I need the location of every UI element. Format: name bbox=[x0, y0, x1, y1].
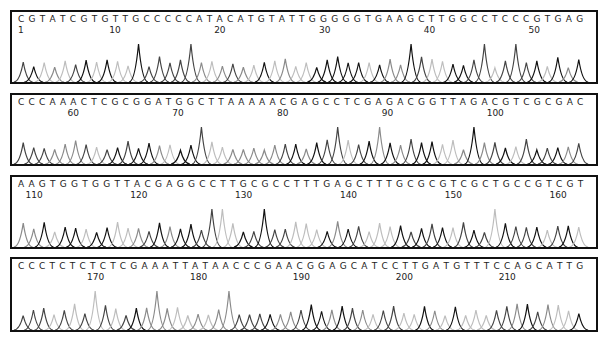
tick-label: 130 bbox=[235, 190, 252, 200]
trace-signal bbox=[12, 38, 596, 82]
tick-label: 10 bbox=[109, 25, 120, 35]
tick-label: 200 bbox=[396, 272, 413, 282]
position-ticks: 11020304050 bbox=[12, 25, 596, 35]
base-calls: C C C A A A C T C G C G G A T G G C T T … bbox=[18, 97, 584, 107]
tick-label: 90 bbox=[382, 108, 393, 118]
tick-label: 70 bbox=[172, 108, 183, 118]
tick-label: 160 bbox=[550, 190, 567, 200]
tick-label: 150 bbox=[445, 190, 462, 200]
trace-signal bbox=[12, 121, 596, 164]
position-ticks: 110120130140150160 bbox=[12, 190, 596, 200]
tick-label: 80 bbox=[277, 108, 288, 118]
tick-label: 180 bbox=[190, 272, 207, 282]
trace-panel-4: C C C T C T C T C T C G A A A T T A T A … bbox=[10, 257, 598, 332]
trace-panel-1: C G T A T C G T G T T G C C C C C A T A … bbox=[10, 10, 598, 84]
tick-label: 60 bbox=[67, 108, 78, 118]
tick-label: 1 bbox=[18, 25, 24, 35]
tick-label: 190 bbox=[293, 272, 310, 282]
tick-label: 110 bbox=[25, 190, 42, 200]
trace-signal bbox=[12, 285, 596, 330]
tick-label: 40 bbox=[424, 25, 435, 35]
position-ticks: 170180190200210 bbox=[12, 272, 596, 282]
tick-label: 100 bbox=[487, 108, 504, 118]
tick-label: 210 bbox=[499, 272, 516, 282]
tick-label: 120 bbox=[130, 190, 147, 200]
tick-label: 20 bbox=[214, 25, 225, 35]
trace-signal bbox=[12, 203, 596, 247]
trace-panel-2: C C C A A A C T C G C G G A T G G C T T … bbox=[10, 93, 598, 166]
tick-label: 30 bbox=[319, 25, 330, 35]
base-calls: C G T A T C G T G T T G C C C C C A T A … bbox=[18, 14, 584, 24]
tick-label: 50 bbox=[529, 25, 540, 35]
tick-label: 140 bbox=[340, 190, 357, 200]
base-calls: C C C T C T C T C T C G A A A T T A T A … bbox=[18, 261, 584, 271]
base-calls: A A G T G G T G G T T A C G A G G C C T … bbox=[18, 179, 584, 189]
position-ticks: 60708090100 bbox=[12, 108, 596, 118]
trace-panel-3: A A G T G G T G G T T A C G A G G C C T … bbox=[10, 175, 598, 249]
tick-label: 170 bbox=[87, 272, 104, 282]
